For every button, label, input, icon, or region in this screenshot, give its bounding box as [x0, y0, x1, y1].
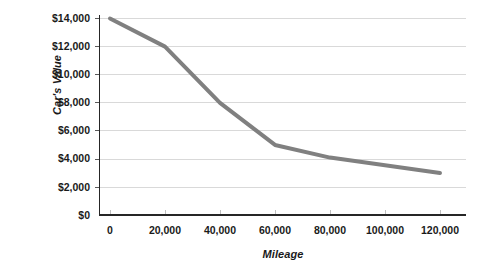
x-axis-tick-labels: 0 20,000 40,000 60,000 80,000 100,000 12…: [0, 0, 481, 275]
x-tick-label-120000: 120,000: [405, 224, 475, 236]
x-axis-title: Mileage: [99, 248, 467, 260]
bottom-caption-fragment: [140, 266, 470, 275]
line-chart: Car's Value $14,000 $12,000 $10,000 $8,0…: [0, 0, 481, 275]
